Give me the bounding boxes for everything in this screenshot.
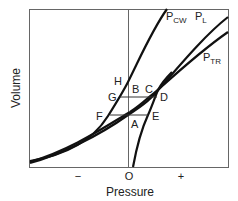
point-g: G — [108, 91, 117, 103]
y-axis-label: Volume — [9, 68, 23, 108]
x-axis-label: Pressure — [106, 185, 154, 199]
pl-label: PL — [195, 10, 207, 25]
xtick-minus: − — [75, 170, 81, 182]
point-e: E — [152, 110, 159, 122]
pcw-label: PCW — [166, 10, 187, 25]
ptr-label: PTR — [203, 51, 221, 66]
pressure-volume-diagram: PCW PL PTR H B C G D F E A − O + Pressur… — [0, 0, 238, 201]
xtick-zero: O — [125, 170, 134, 182]
xtick-plus: + — [178, 170, 184, 182]
point-c: C — [145, 83, 153, 95]
point-b: B — [132, 83, 139, 95]
point-a: A — [131, 118, 139, 130]
point-h: H — [114, 75, 122, 87]
point-d: D — [160, 91, 168, 103]
point-f: F — [96, 110, 103, 122]
